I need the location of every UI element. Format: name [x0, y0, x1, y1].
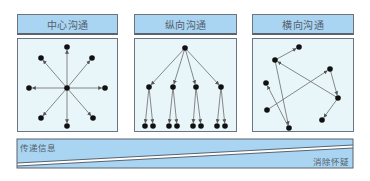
horizontal-node — [286, 125, 292, 131]
central-leaf-node — [90, 115, 96, 121]
horizontal-node — [335, 95, 341, 101]
horizontal-node — [327, 66, 333, 72]
horizontal-edge — [275, 49, 296, 60]
vertical-middle-node — [170, 84, 176, 90]
horizontal-node — [319, 117, 325, 123]
horizontal-node — [264, 107, 270, 113]
vertical-leaf-node — [214, 123, 220, 129]
horizontal-node — [263, 80, 269, 86]
vertical-edge — [174, 48, 185, 84]
vertical-edge — [149, 87, 153, 123]
vertical-middle-node — [146, 84, 152, 90]
vertical-edge — [193, 87, 196, 123]
vertical-edge — [217, 87, 221, 123]
central-leaf-node — [102, 85, 108, 91]
vertical-leaf-node — [174, 123, 180, 129]
vertical-leaf-node — [150, 123, 156, 129]
horizontal-edge — [330, 69, 337, 95]
diagram-edges — [32, 48, 338, 128]
vertical-edge — [196, 87, 201, 123]
vertical-edge — [145, 87, 149, 123]
vertical-leaf-node — [142, 123, 148, 129]
vertical-middle-node — [218, 84, 224, 90]
central-edge — [67, 88, 91, 116]
central-edge — [67, 60, 90, 88]
central-leaf-node — [89, 55, 95, 61]
vertical-leaf-node — [190, 123, 196, 129]
central-leaf-node — [64, 44, 70, 50]
horizontal-edge — [275, 60, 288, 125]
diagram-nodes — [26, 44, 341, 131]
band-label-dispel-doubt: 消除怀疑 — [313, 155, 349, 167]
central-leaf-node — [38, 55, 44, 61]
vertical-leaf-node — [222, 123, 228, 129]
band-label-transmit: 传递信息 — [20, 141, 56, 153]
vertical-leaf-node — [198, 123, 204, 129]
vertical-edge — [169, 87, 173, 123]
horizontal-edge — [267, 86, 289, 128]
vertical-middle-node — [193, 84, 199, 90]
horizontal-node — [296, 44, 302, 50]
vertical-leaf-node — [166, 123, 172, 129]
vertical-edge — [151, 48, 185, 85]
central-leaf-node — [38, 115, 44, 121]
central-hub-node — [64, 85, 70, 91]
diagram-canvas — [0, 0, 370, 181]
gradient-band — [17, 139, 353, 168]
horizontal-edge — [267, 71, 327, 110]
central-edge — [43, 60, 67, 88]
central-edge — [43, 88, 67, 116]
vertical-root-node — [182, 45, 188, 51]
horizontal-edge — [324, 98, 338, 117]
central-leaf-node — [26, 85, 32, 91]
vertical-edge — [221, 87, 225, 123]
vertical-edge — [173, 87, 177, 123]
central-leaf-node — [64, 123, 70, 129]
horizontal-node — [272, 57, 278, 63]
